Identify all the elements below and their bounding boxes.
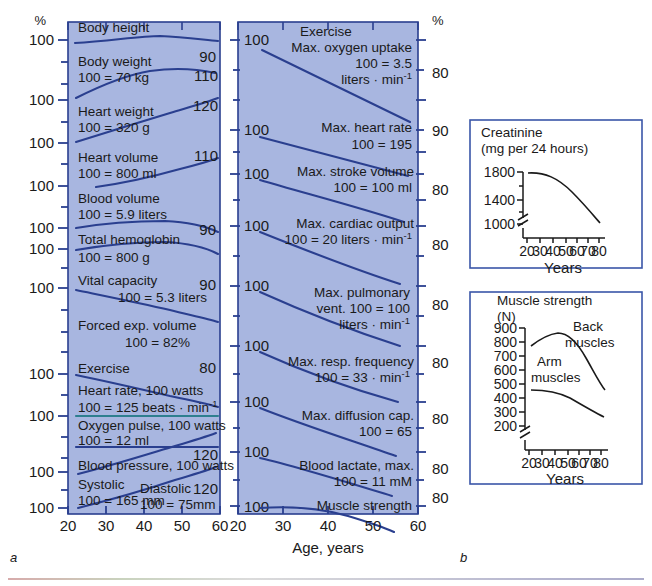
y-tick-200: 200 bbox=[494, 418, 518, 434]
label-blood-lactate-sub: 100 = 11 mM bbox=[334, 474, 412, 489]
x-tick-50: 50 bbox=[365, 517, 382, 534]
right-label-80: 80 bbox=[432, 460, 449, 477]
axis-label-100: 100 bbox=[244, 217, 269, 234]
caption-a: a bbox=[10, 550, 17, 565]
axis-label-100: 100 bbox=[29, 499, 54, 516]
annotation-back: Back bbox=[573, 319, 603, 334]
muscle-x-labels: 20 30 40 50 60 70 80 bbox=[521, 455, 609, 471]
x-axis-title: Age, years bbox=[292, 539, 364, 556]
right-label-80: 80 bbox=[432, 64, 449, 81]
label-max-oxygen-uptake: Max. oxygen uptake bbox=[291, 40, 412, 55]
right-label-120: 120 bbox=[193, 480, 218, 497]
percent-symbol-left: % bbox=[34, 13, 46, 28]
label-forced-exp-volume: Forced exp. volume bbox=[78, 318, 197, 333]
label-blood-volume: Blood volume bbox=[78, 191, 160, 206]
y-tick-1400: 1400 bbox=[484, 192, 515, 208]
percent-symbol-right: % bbox=[432, 13, 444, 28]
right-label-80: 80 bbox=[432, 296, 449, 313]
label-max-cardiac-output-sub: 100 = 20 liters · min-1 bbox=[285, 230, 412, 247]
annotation-arm-2: muscles bbox=[531, 370, 581, 385]
bottom-rule bbox=[8, 578, 644, 580]
label-blood-volume-sub: 100 = 5.9 liters bbox=[78, 207, 167, 222]
right-label-110: 110 bbox=[194, 67, 218, 84]
axis-label-100: 100 bbox=[29, 134, 54, 151]
muscle-title-1: Muscle strength bbox=[497, 293, 592, 308]
right-label-80: 80 bbox=[199, 359, 216, 376]
label-vital-capacity-sub: 100 = 5.3 liters bbox=[118, 290, 207, 305]
right-label-90: 90 bbox=[432, 122, 449, 139]
x-tick-30: 30 bbox=[275, 517, 292, 534]
axis-label-100: 100 bbox=[244, 393, 269, 410]
label-max-resp-frequency: Max. resp. frequency bbox=[288, 354, 414, 369]
figure-root: 100 100 100 100 100 100 100 100 100 100 … bbox=[0, 0, 652, 586]
creatinine-y-labels: 1800 1400 1000 bbox=[484, 164, 515, 232]
right-label-80: 80 bbox=[432, 410, 449, 427]
label-total-hemoglobin: Total hemoglobin bbox=[78, 232, 180, 247]
label-heart-rate-sub: 100 = 125 beats · min-1 bbox=[78, 398, 217, 415]
label-max-cardiac-output: Max. cardiac output bbox=[296, 216, 414, 231]
panel-b-muscle: Muscle strength (N) 900 800 bbox=[470, 292, 642, 487]
label-max-pulmonary-vent-sub2: liters · min-1 bbox=[339, 315, 410, 332]
right-label-120: 120 bbox=[193, 97, 218, 114]
panel-b-creatinine: Creatinine (mg per 24 hours) 1800 1400 1… bbox=[470, 120, 642, 276]
axis-label-100: 100 bbox=[29, 219, 54, 236]
creatinine-x-labels: 20 30 40 50 60 70 80 bbox=[519, 243, 607, 259]
annotation-arm: Arm bbox=[537, 354, 562, 369]
axis-label-100: 100 bbox=[244, 121, 269, 138]
right-label-80: 80 bbox=[432, 489, 449, 506]
panel-mid: 100 100 100 100 100 100 100 100 100 % 80… bbox=[230, 13, 449, 556]
label-exercise-heading: Exercise bbox=[78, 361, 130, 376]
label-max-diffusion-cap-sub: 100 = 65 bbox=[359, 424, 412, 439]
axis-label-100: 100 bbox=[244, 165, 269, 182]
label-max-pulmonary-vent: Max. pulmonary bbox=[314, 285, 410, 300]
label-oxygen-pulse: Oxygen pulse, 100 watts bbox=[78, 418, 226, 433]
label-body-weight: Body weight bbox=[78, 54, 152, 69]
right-label-90: 90 bbox=[199, 276, 216, 293]
label-heart-weight-sub: 100 = 320 g bbox=[78, 120, 150, 135]
axis-label-100: 100 bbox=[29, 91, 54, 108]
axis-label-100: 100 bbox=[29, 279, 54, 296]
y-tick-1800: 1800 bbox=[484, 164, 515, 180]
label-body-height: Body height bbox=[78, 20, 150, 35]
y-tick-1000: 1000 bbox=[484, 216, 515, 232]
axis-label-100: 100 bbox=[29, 177, 54, 194]
creatinine-title-2: (mg per 24 hours) bbox=[481, 141, 588, 156]
annotation-back-2: muscles bbox=[565, 335, 615, 350]
right-label-90: 90 bbox=[199, 221, 216, 238]
label-exercise-heading: Exercise bbox=[300, 24, 352, 39]
label-systolic: Systolic bbox=[78, 477, 125, 492]
panel-mid-plot-area bbox=[238, 22, 418, 514]
label-diastolic-sub: 100 = 75mm bbox=[140, 497, 215, 512]
x-tick-20: 20 bbox=[230, 517, 247, 534]
right-label-120: 120 bbox=[193, 446, 218, 463]
label-forced-exp-volume-sub: 100 = 82% bbox=[125, 335, 190, 350]
axis-label-100: 100 bbox=[29, 365, 54, 382]
x-tick-80: 80 bbox=[593, 455, 609, 471]
x-tick-60: 60 bbox=[212, 517, 229, 534]
label-total-hemoglobin-sub: 100 = 800 g bbox=[78, 250, 150, 265]
label-heart-volume-sub: 100 = 800 ml bbox=[78, 166, 156, 181]
label-max-oxygen-uptake-sub: 100 = 3.5 bbox=[355, 56, 412, 71]
x-tick-40: 40 bbox=[320, 517, 337, 534]
muscle-xlabel: Years bbox=[546, 470, 584, 487]
caption-b: b bbox=[460, 550, 467, 565]
axis-label-100: 100 bbox=[244, 337, 269, 354]
label-max-heart-rate: Max. heart rate bbox=[321, 120, 412, 135]
x-tick-40: 40 bbox=[136, 517, 153, 534]
right-label-80: 80 bbox=[432, 236, 449, 253]
muscle-y-labels: 900 800 700 600 500 400 300 200 bbox=[494, 320, 518, 434]
label-max-pulmonary-vent-sub: vent. 100 = 100 bbox=[317, 301, 410, 316]
label-max-diffusion-cap: Max. diffusion cap. bbox=[302, 408, 414, 423]
right-label-80: 80 bbox=[432, 181, 449, 198]
label-max-oxygen-uptake-sub2: liters · min-1 bbox=[341, 70, 412, 87]
label-blood-lactate: Blood lactate, max. bbox=[299, 458, 414, 473]
axis-label-100: 100 bbox=[244, 443, 269, 460]
label-heart-rate: Heart rate, 100 watts bbox=[78, 383, 204, 398]
x-tick-20: 20 bbox=[60, 517, 77, 534]
label-oxygen-pulse-sub: 100 = 12 ml bbox=[78, 433, 149, 448]
label-heart-weight: Heart weight bbox=[78, 104, 154, 119]
label-body-weight-sub: 100 = 70 kg bbox=[78, 70, 149, 85]
creatinine-xlabel: Years bbox=[544, 259, 582, 276]
axis-label-100: 100 bbox=[244, 498, 269, 515]
creatinine-title-1: Creatinine bbox=[481, 125, 543, 140]
